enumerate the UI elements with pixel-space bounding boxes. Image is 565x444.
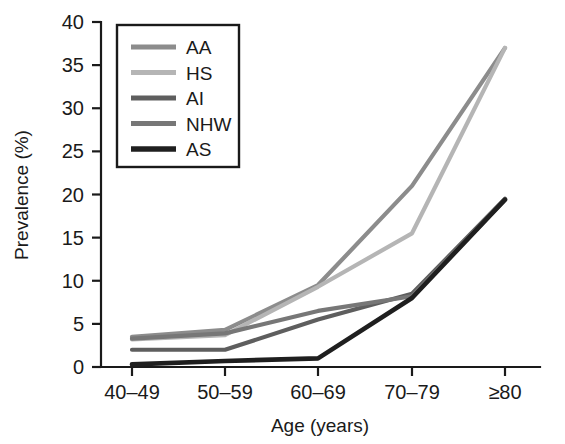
y-tick-label-40: 40 — [62, 11, 84, 33]
x-tick-label-4: ≥80 — [488, 381, 521, 403]
y-axis-title: Prevalence (%) — [11, 130, 32, 260]
y-tick-label-5: 5 — [73, 313, 84, 335]
y-tick-label-10: 10 — [62, 270, 84, 292]
y-tick-label-30: 30 — [62, 97, 84, 119]
line-chart: 0510152025303540 40–4950–5960–6970–79≥80… — [0, 0, 565, 444]
y-axis-ticks — [92, 22, 101, 367]
y-tick-label-35: 35 — [62, 54, 84, 76]
x-axis-title: Age (years) — [271, 415, 369, 436]
legend-label-aa: AA — [186, 37, 212, 58]
x-tick-label-2: 60–69 — [290, 381, 346, 403]
x-tick-label-1: 50–59 — [197, 381, 253, 403]
legend-label-nhw: NHW — [186, 114, 231, 135]
x-tick-label-3: 70–79 — [384, 381, 440, 403]
legend-label-as: AS — [186, 139, 211, 160]
y-tick-label-25: 25 — [62, 140, 84, 162]
x-axis-tick-labels: 40–4950–5960–6970–79≥80 — [104, 381, 521, 403]
y-tick-label-0: 0 — [73, 356, 84, 378]
legend-label-ai: AI — [186, 88, 204, 109]
series-line-ai — [132, 199, 505, 350]
x-axis-ticks — [132, 367, 505, 376]
y-axis-tick-labels: 0510152025303540 — [62, 11, 84, 378]
chart-figure: 0510152025303540 40–4950–5960–6970–79≥80… — [0, 0, 565, 444]
x-tick-label-0: 40–49 — [104, 381, 160, 403]
y-tick-label-20: 20 — [62, 184, 84, 206]
legend-label-hs: HS — [186, 63, 212, 84]
y-tick-label-15: 15 — [62, 227, 84, 249]
